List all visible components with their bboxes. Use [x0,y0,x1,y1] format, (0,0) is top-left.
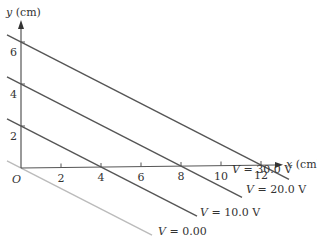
y-tick-label: 2 [10,130,17,143]
y-tick-label: 6 [10,46,17,59]
x-tick-label: 8 [178,170,185,183]
x-tick-label: 10 [214,170,228,183]
y-axis-arrow-icon [18,20,24,29]
y-tick-label: 4 [10,88,17,101]
y-axis-label: y (cm) [5,6,41,19]
equipotential-line [7,35,289,180]
equipotential-label: V = 10.0 V [200,206,261,219]
equipotential-label: V = 30.0 V [232,163,293,176]
x-tick-label: 6 [138,171,145,184]
equipotential-label: V = 0.00 [158,225,207,238]
equipotential-label: V = 20.0 V [246,183,307,196]
equipotential-diagram: 24681012246 y (cm) x (cm) O V = 30.0 VV … [0,0,317,243]
x-tick-label: 4 [98,171,105,184]
equipotential-line [7,161,152,235]
x-tick-label: 2 [58,172,65,185]
origin-label: O [12,173,21,186]
